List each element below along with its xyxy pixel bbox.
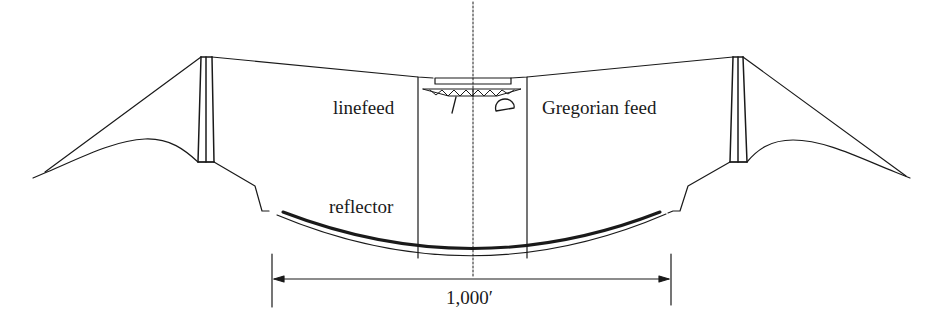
reflector-surface (283, 212, 660, 249)
radio-telescope-diagram (0, 0, 938, 327)
reflector-label: reflector (329, 197, 393, 216)
main-cable-left (212, 57, 433, 78)
left-ground-profile (33, 139, 269, 211)
linefeed (452, 97, 456, 113)
dimension-label: 1,000′ (446, 288, 493, 307)
main-cable-right (511, 57, 733, 78)
gregorian-dome (496, 99, 515, 111)
truss (423, 89, 521, 97)
right-ground-profile (668, 140, 910, 213)
right-tower (730, 57, 747, 162)
left-tower (198, 57, 214, 162)
left-back-cable (45, 57, 201, 172)
right-back-cable (743, 57, 906, 176)
linefeed-label: linefeed (333, 98, 394, 117)
gregorian-feed-label: Gregorian feed (542, 98, 656, 117)
